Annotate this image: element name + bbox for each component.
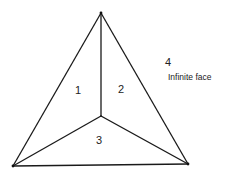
edge-top-bottom-left: [13, 13, 101, 166]
vertex-top: [100, 12, 103, 15]
face-label-2: 2: [118, 83, 124, 95]
face-label-4: 4: [165, 56, 171, 68]
vertex-bottom-right: [187, 163, 190, 166]
edge-top-bottom-right: [101, 13, 188, 164]
edge-bottom-right-center: [101, 116, 188, 164]
face-label-3: 3: [96, 134, 102, 146]
planar-graph-diagram: 1 2 3 4 Infinite face: [0, 0, 229, 178]
edge-bottom-left-center: [13, 116, 101, 166]
vertex-center: [100, 115, 102, 117]
infinite-face-note: Infinite face: [168, 72, 212, 82]
face-label-1: 1: [75, 84, 81, 96]
vertex-bottom-left: [12, 165, 15, 168]
edge-bottom-left-bottom-right: [13, 164, 188, 166]
